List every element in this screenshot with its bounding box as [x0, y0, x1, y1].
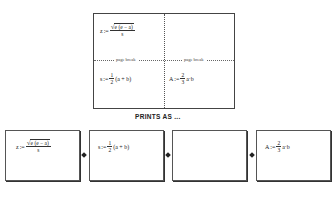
eq-denominator: s: [37, 147, 39, 153]
eq-lhs: s: [100, 76, 102, 82]
eq-assign: :=: [103, 76, 108, 82]
fraction: 1 2: [109, 72, 114, 85]
page-break-label-right: page break: [182, 57, 206, 63]
eq-lhs: A: [169, 76, 173, 82]
worksheet-diagram: page break page break z := √e (e − a) s …: [93, 13, 235, 109]
fraction: 2 3: [180, 72, 185, 85]
fraction: √e (e − a) s: [26, 140, 51, 153]
printed-page-4: A := 2 3 a·b: [256, 130, 331, 181]
eq-assign: :=: [104, 28, 109, 34]
printed-page-1: z := √e (e − a) s: [5, 130, 80, 181]
eq-rest: a·b: [282, 144, 290, 150]
eq-denominator: 3: [277, 147, 280, 153]
eq-numerator: e (e − a): [30, 139, 50, 146]
eq-numerator: 2: [180, 72, 185, 79]
eq-numerator: 1: [107, 140, 112, 147]
eq-assign: :=: [101, 144, 106, 150]
equation-s: s := 1 2 (a + b): [98, 140, 129, 153]
eq-denominator: 3: [181, 79, 184, 85]
eq-assign: :=: [20, 144, 25, 150]
equation-A: A := 2 3 a·b: [265, 140, 290, 153]
printed-page-2: s := 1 2 (a + b): [89, 130, 164, 181]
eq-lhs: s: [98, 144, 100, 150]
connector-diamond-icon: [165, 152, 171, 158]
eq-assign: :=: [174, 76, 179, 82]
printed-page-3-empty: [172, 130, 247, 181]
eq-numerator: e (e − a): [114, 23, 134, 30]
equation-z: z := √e (e − a) s: [16, 140, 51, 153]
connector-diamond-icon: [249, 152, 255, 158]
equation-z: z := √e (e − a) s: [100, 24, 135, 37]
eq-assign: :=: [270, 144, 275, 150]
fraction: 2 3: [276, 140, 281, 153]
equation-s: s := 1 2 (a + b): [100, 72, 131, 85]
connector-diamond-icon: [81, 152, 87, 158]
prints-as-caption: PRINTS AS ...: [135, 113, 181, 120]
page-break-label-left: page break: [114, 57, 138, 63]
eq-denominator: 2: [108, 147, 111, 153]
eq-lhs: z: [100, 28, 103, 34]
eq-numerator: 1: [109, 72, 114, 79]
eq-denominator: 2: [110, 79, 113, 85]
vertical-page-break: [164, 14, 165, 108]
eq-lhs: A: [265, 144, 269, 150]
eq-numerator: 2: [276, 140, 281, 147]
eq-rest: a·b: [186, 76, 194, 82]
eq-rest: (a + b): [113, 144, 129, 150]
fraction: 1 2: [107, 140, 112, 153]
fraction: √e (e − a) s: [110, 24, 135, 37]
eq-rest: (a + b): [115, 76, 131, 82]
eq-lhs: z: [16, 144, 19, 150]
eq-denominator: s: [121, 31, 123, 37]
equation-A: A := 2 3 a·b: [169, 72, 194, 85]
